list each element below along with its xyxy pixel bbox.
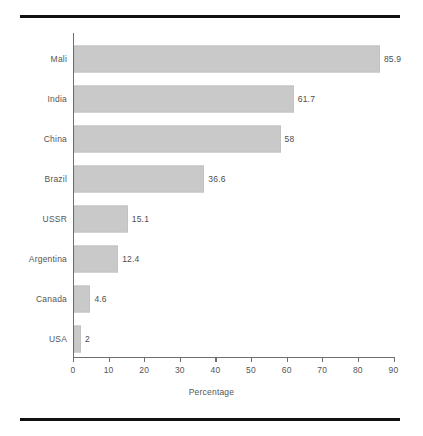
x-tick-mark (251, 357, 252, 362)
bar-row: China58 (0, 119, 423, 159)
x-axis-title: Percentage (0, 387, 423, 397)
bar-row: USSR15.1 (0, 199, 423, 239)
bar-value-label: 36.6 (208, 174, 225, 184)
category-label: China (44, 134, 67, 144)
x-tick-mark (109, 357, 110, 362)
category-label: India (48, 94, 67, 104)
x-tick-mark (394, 357, 395, 362)
bar-row: India61.7 (0, 79, 423, 119)
category-label: USSR (43, 214, 67, 224)
bar-row: Brazil36.6 (0, 159, 423, 199)
x-tick-mark (144, 357, 145, 362)
x-tick-mark (73, 357, 74, 362)
bar-value-label: 12.4 (122, 254, 139, 264)
x-tick-mark (287, 357, 288, 362)
category-label: Brazil (45, 174, 67, 184)
bar (74, 285, 90, 312)
bar (74, 325, 81, 352)
x-tick-label: 20 (139, 365, 149, 375)
x-tick-mark (180, 357, 181, 362)
bar (74, 85, 294, 112)
category-label: USA (49, 334, 67, 344)
x-tick-mark (358, 357, 359, 362)
bar (74, 45, 380, 72)
x-tick-label: 50 (246, 365, 256, 375)
category-label: Argentina (29, 254, 67, 264)
category-label: Canada (36, 294, 67, 304)
category-label: Mali (51, 54, 67, 64)
bar-value-label: 4.6 (94, 294, 106, 304)
x-tick-label: 40 (211, 365, 221, 375)
bar-value-label: 2 (85, 334, 90, 344)
bar (74, 165, 204, 192)
x-tick-label: 0 (71, 365, 76, 375)
chart-figure: Mali85.9India61.7China58Brazil36.6USSR15… (0, 0, 423, 436)
bar (74, 245, 118, 272)
bar-row: Canada4.6 (0, 279, 423, 319)
plot-area: Mali85.9India61.7China58Brazil36.6USSR15… (0, 0, 423, 436)
bar-value-label: 58 (285, 134, 295, 144)
x-tick-label: 70 (317, 365, 327, 375)
bar-row: Mali85.9 (0, 39, 423, 79)
bar-value-label: 85.9 (384, 54, 401, 64)
bar (74, 125, 281, 152)
x-tick-mark (215, 357, 216, 362)
x-tick-label: 80 (353, 365, 363, 375)
x-tick-label: 60 (282, 365, 292, 375)
bar-value-label: 61.7 (298, 94, 315, 104)
bar (74, 205, 128, 232)
bar-row: Argentina12.4 (0, 239, 423, 279)
x-tick-mark (322, 357, 323, 362)
bar-row: USA2 (0, 319, 423, 359)
x-tick-label: 10 (104, 365, 114, 375)
x-tick-label: 90 (389, 365, 399, 375)
bar-value-label: 15.1 (132, 214, 149, 224)
x-tick-label: 30 (175, 365, 185, 375)
